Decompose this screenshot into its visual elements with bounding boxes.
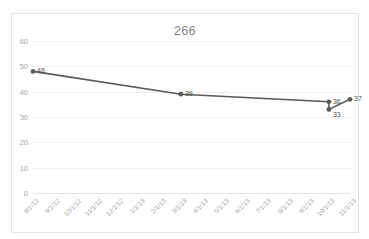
y-tick-label-20: 20: [20, 138, 28, 147]
data-label-37: 37: [354, 95, 362, 102]
x-tick-label-9: 5/1/13: [212, 197, 230, 215]
x-tick-label-12: 8/1/13: [276, 197, 294, 215]
x-tick-label-7: 3/1/13: [170, 197, 188, 215]
x-tick-label-1: 9/1/12: [43, 197, 61, 215]
data-point-2: [327, 99, 332, 104]
data-label-33: 33: [333, 111, 341, 118]
x-tick-label-5: 1/1/13: [128, 197, 146, 215]
x-tick-label-2: 10/1/12: [62, 197, 82, 217]
data-label-39: 39: [185, 90, 193, 97]
y-tick-label-30: 30: [20, 113, 28, 122]
x-tick-label-15: 11/1/13: [337, 197, 357, 217]
y-tick-label-10: 10: [20, 163, 28, 172]
data-point-1: [179, 92, 184, 97]
chart-title: 266: [12, 24, 358, 38]
x-tick-label-14: 10/1/13: [316, 197, 336, 217]
y-tick-label-0: 0: [24, 189, 28, 198]
x-tick-label-11: 7/1/13: [255, 197, 273, 215]
x-tick-label-0: 8/1/12: [22, 197, 40, 215]
gridline-0: 0: [33, 193, 350, 194]
data-label-48: 48: [37, 67, 45, 74]
x-tick-label-4: 12/1/12: [104, 197, 124, 217]
x-tick-label-10: 6/1/13: [234, 197, 252, 215]
x-tick-label-8: 4/1/13: [191, 197, 209, 215]
plot-area: 0102030405060 4839363337 8/1/129/1/1210/…: [33, 41, 350, 193]
chart-container: 266 0102030405060 4839363337 8/1/129/1/1…: [11, 13, 359, 233]
data-point-3: [327, 107, 332, 112]
y-tick-label-40: 40: [20, 87, 28, 96]
series-line-266: [33, 41, 350, 193]
x-tick-label-6: 2/1/13: [149, 197, 167, 215]
data-label-36: 36: [333, 97, 341, 104]
x-tick-label-3: 11/1/12: [83, 197, 103, 217]
y-tick-label-60: 60: [20, 37, 28, 46]
y-tick-label-50: 50: [20, 62, 28, 71]
data-point-4: [348, 97, 353, 102]
data-point-0: [31, 69, 36, 74]
x-tick-label-13: 9/1/13: [297, 197, 315, 215]
